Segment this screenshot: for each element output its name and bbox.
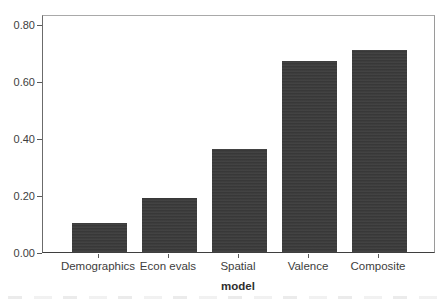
y-tick-label-0.80: 0.80 [0,19,35,31]
y-tick-label-0.00: 0.00 [0,247,35,259]
x-tick [308,254,309,258]
x-tick [238,254,239,258]
category-label-composite: Composite [323,260,433,273]
x-tick [168,254,169,258]
bar-econ-evals [142,198,197,252]
y-tick [37,139,42,140]
y-tick-label-0.40: 0.40 [0,133,35,145]
bar-demographics [72,223,127,252]
bar-composite [352,50,407,252]
y-tick-label-0.60: 0.60 [0,76,35,88]
y-tick [37,253,42,254]
y-tick-label-0.20: 0.20 [0,190,35,202]
y-tick [37,196,42,197]
x-axis-title: model [188,280,288,292]
x-tick [98,254,99,258]
y-tick [37,82,42,83]
cropped-caption-artifact [8,296,438,299]
bar-valence [282,61,337,252]
x-tick [378,254,379,258]
bar-spatial [212,149,267,252]
y-tick [37,25,42,26]
bar-chart-figure: 0.000.200.400.600.80 DemographicsEcon ev… [0,0,447,303]
plot-area [42,15,435,253]
